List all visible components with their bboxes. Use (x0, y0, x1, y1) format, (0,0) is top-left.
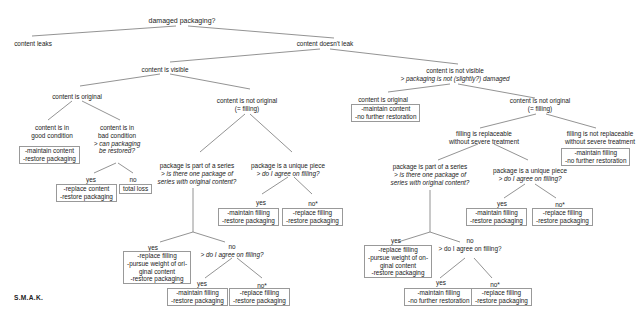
action-text: -restore packaging (60, 193, 113, 201)
action-text: ginal content (127, 268, 187, 276)
action-text: -pursue weight of on- (368, 254, 428, 262)
action-text: -replace filling (475, 289, 528, 297)
node-question: > do I agree on filling? (493, 175, 567, 183)
node-content-doesnt-leak: content doesn't leak (297, 40, 354, 48)
action-text: -replace content (60, 185, 113, 193)
node-question: > is there one package of (158, 170, 237, 178)
action-box-replace-filling: -replace filling -restore packaging (532, 208, 593, 226)
node-text: content is not original (510, 97, 570, 105)
action-box-replace-filling: -replace filling -restore packaging (282, 208, 343, 226)
action-text: total loss (123, 185, 148, 193)
node-question: series with original content? (391, 179, 470, 187)
node-text: filling is not replaceable (565, 130, 635, 138)
label-yes: yes (86, 176, 96, 184)
node-series-left: package is part of a series > is there o… (158, 162, 237, 185)
node-text: (= filling) (510, 105, 570, 113)
root-question: damaged packaging? (149, 17, 216, 25)
node-visible-original: content is original (52, 93, 102, 101)
action-text: -replace filling (368, 246, 428, 254)
node-question: be restored? (94, 147, 141, 155)
label-yes: yes (197, 280, 207, 288)
node-good-condition: content is in good condition (31, 124, 73, 140)
node-hidden-not-original: content is not original (= filling) (510, 97, 570, 113)
action-text: -maintain filling (565, 149, 626, 157)
node-question: > do I agree on filling? (438, 245, 501, 253)
node-text: without severe treatment (565, 138, 635, 146)
node-content-leaks: content leaks (14, 40, 52, 48)
node-filling-not-replaceable: filling is not replaceable without sever… (565, 130, 635, 146)
node-text: content is not original (217, 97, 277, 105)
node-text: (= filling) (217, 105, 277, 113)
action-text: -no further restoration (355, 113, 416, 121)
action-box-maintain-filling-no-restoration: -maintain filling -no further restoratio… (404, 288, 473, 306)
node-question: series with original content? (158, 178, 237, 186)
node-unique-right: package is a unique piece > do I agree o… (493, 167, 567, 183)
action-box-good-condition: -maintain content -restore packaging (19, 146, 80, 164)
node-text: no (438, 237, 501, 245)
action-box-replace-filling: -replace filling -restore packaging (229, 288, 290, 306)
action-text: -restore packaging (286, 217, 339, 225)
action-text: ginal content (368, 262, 428, 270)
node-visible-not-original: content is not original (= filling) (217, 97, 277, 113)
node-text: package is a unique piece (493, 167, 567, 175)
node-question: > do I agree on filling? (251, 170, 325, 178)
label-no-asterisk: no* (308, 200, 318, 208)
node-series-right-no: no > do I agree on filling? (438, 237, 501, 253)
action-text: -maintain filling (222, 209, 275, 217)
action-box-maintain-filling: -maintain filling -restore packaging (167, 288, 228, 306)
action-box-maintain-filling: -maintain filling -restore packaging (466, 208, 527, 226)
node-text: good condition (31, 132, 73, 140)
action-text: -restore packaging (23, 155, 76, 163)
node-filling-replaceable: filling is replaceable without severe tr… (449, 130, 519, 146)
action-text: -restore packaging (233, 297, 286, 305)
action-text: -restore packaging (127, 275, 187, 283)
action-box-maintain-filling-no-restoration: -maintain filling -no further restoratio… (561, 148, 630, 166)
action-box-maintain-content: -maintain content -no further restoratio… (351, 104, 420, 122)
action-text: -maintain filling (408, 289, 469, 297)
action-text: -restore packaging (368, 269, 428, 277)
node-text: package is part of a series (158, 162, 237, 170)
label-yes: yes (436, 279, 446, 287)
action-text: -restore packaging (475, 297, 528, 305)
action-box-replace-filling-pursue: -replace filling -pursue weight of ori- … (123, 251, 191, 284)
node-text: content is in (94, 124, 141, 132)
action-text: -replace filling (536, 209, 589, 217)
action-text: -restore packaging (222, 217, 275, 225)
node-content-not-visible: content is not visible > packaging is no… (400, 67, 509, 83)
action-text: -replace filling (233, 289, 286, 297)
action-text: -maintain filling (470, 209, 523, 217)
action-box-replace-filling: -replace filling -restore packaging (471, 288, 532, 306)
action-box-maintain-filling: -maintain filling -restore packaging (218, 208, 279, 226)
node-text: package is a unique piece (251, 162, 325, 170)
node-question: > packaging is not (slightly?) damaged (400, 75, 509, 83)
node-text: bad condition (94, 132, 141, 140)
action-text: -maintain filling (171, 289, 224, 297)
node-text: package is part of a series (391, 163, 470, 171)
node-text: without severe treatment (449, 138, 519, 146)
action-text: -no further restoration (408, 297, 469, 305)
node-bad-condition: content is in bad condition > can packag… (94, 124, 141, 155)
action-text: -restore packaging (171, 297, 224, 305)
node-text: content is not visible (400, 67, 509, 75)
label-no: no (129, 176, 136, 184)
action-text: -no further restoration (565, 157, 626, 165)
action-text: -maintain content (23, 147, 76, 155)
label-yes: yes (391, 237, 401, 245)
action-box-replace-content: -replace content -restore packaging (56, 184, 117, 202)
node-text: no (200, 243, 263, 251)
node-series-no: no > do I agree on filling? (200, 243, 263, 259)
node-content-visible: content is visible (142, 66, 189, 74)
node-series-right: package is part of a series > is there o… (391, 163, 470, 186)
label-yes: yes (256, 199, 266, 207)
action-text: -replace filling (286, 209, 339, 217)
node-unique-left: package is a unique piece > do I agree o… (251, 162, 325, 178)
action-text: -restore packaging (536, 217, 589, 225)
node-text: filling is replaceable (449, 130, 519, 138)
action-box-total-loss: total loss (119, 184, 152, 194)
node-question: > is there one package of (391, 171, 470, 179)
node-question: > do I agree on filling? (200, 251, 263, 259)
action-text: -restore packaging (470, 217, 523, 225)
brand-label: S.M.A.K. (14, 294, 43, 301)
label-yes: yes (497, 200, 507, 208)
action-text: -maintain content (355, 105, 416, 113)
